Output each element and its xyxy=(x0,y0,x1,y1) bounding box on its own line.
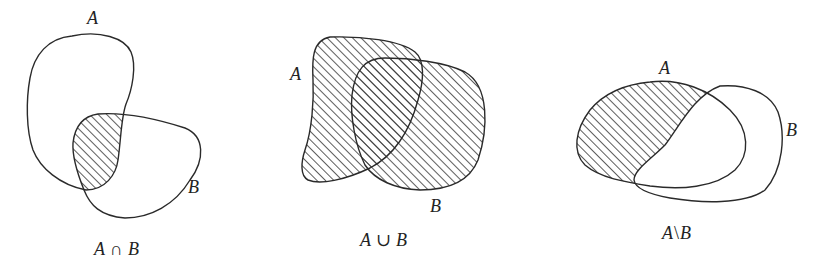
union-diagram: A B A∪B xyxy=(289,37,485,250)
set-a-label: A xyxy=(658,58,671,78)
set-b-label: B xyxy=(430,196,441,216)
set-b-label: B xyxy=(188,177,199,197)
set-b-label: B xyxy=(786,120,797,140)
caption: A∩B xyxy=(93,239,139,259)
difference-diagram: A B A\B xyxy=(577,58,797,243)
venn-diagram-figure: A B A∩B A B A∪B A B A\B xyxy=(0,0,816,279)
caption: A\B xyxy=(661,223,691,243)
set-a-label: A xyxy=(86,8,99,28)
set-a-label: A xyxy=(289,64,302,84)
caption: A∪B xyxy=(359,230,407,250)
intersection-diagram: A B A∩B xyxy=(27,8,200,259)
